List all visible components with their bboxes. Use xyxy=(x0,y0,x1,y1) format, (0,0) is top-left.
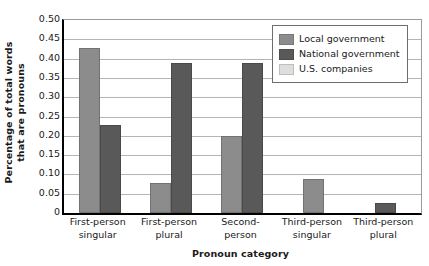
y-axis-tick-label: 0.05 xyxy=(26,188,60,198)
x-axis-tick-label-line2: plural xyxy=(348,229,419,242)
y-axis-tick-label: 0.35 xyxy=(26,72,60,82)
legend-label: National government xyxy=(299,49,400,59)
y-axis-tick-label: 0.50 xyxy=(26,14,60,24)
legend-swatch xyxy=(279,34,294,45)
x-axis-tick-label-line1: Third-person xyxy=(348,216,419,229)
bar xyxy=(303,179,324,213)
bar xyxy=(375,203,396,213)
y-axis-tick-label: 0.40 xyxy=(26,53,60,63)
y-axis-tick-label: 0.25 xyxy=(26,111,60,121)
legend-label: U.S. companies xyxy=(299,64,373,74)
x-axis-tick-label-line1: Third-person xyxy=(276,216,347,229)
bar xyxy=(100,125,121,213)
x-axis-tick-label-line1: First-person xyxy=(133,216,204,229)
x-axis-tick-label: Third-personplural xyxy=(348,216,419,241)
x-axis-tick-label-line2: plural xyxy=(133,229,204,242)
x-axis-tick-labels: First-personsingularFirst-personpluralSe… xyxy=(62,216,419,244)
y-axis-tick-label: 0.45 xyxy=(26,33,60,43)
legend-swatch xyxy=(279,64,294,75)
legend-swatch xyxy=(279,49,294,60)
bar xyxy=(171,63,192,213)
y-axis-tick-label: 0 xyxy=(26,207,60,217)
bar xyxy=(150,183,171,213)
bar-group xyxy=(135,20,206,213)
y-axis-tick-label: 0.20 xyxy=(26,130,60,140)
legend-label: Local government xyxy=(299,34,385,44)
y-axis-tick-label: 0.10 xyxy=(26,169,60,179)
x-axis-tick-label-line2: singular xyxy=(62,229,133,242)
y-axis-tick-label: 0.15 xyxy=(26,149,60,159)
bar-group xyxy=(64,20,135,213)
x-axis-tick-label: First-personsingular xyxy=(62,216,133,241)
bar xyxy=(242,63,263,213)
x-axis-tick-label-line1: First-person xyxy=(62,216,133,229)
legend: Local governmentNational governmentU.S. … xyxy=(272,25,408,83)
legend-item: Local government xyxy=(279,32,400,46)
y-axis-tick-labels: 0.500.450.400.350.300.250.200.150.100.05… xyxy=(20,0,60,266)
x-axis-tick-label-line1: Second- xyxy=(205,216,276,229)
legend-item: National government xyxy=(279,47,400,61)
x-axis-tick-label-line2: singular xyxy=(276,229,347,242)
y-axis-tick-label: 0.30 xyxy=(26,91,60,101)
x-axis-tick-label: First-personplural xyxy=(133,216,204,241)
legend-item: U.S. companies xyxy=(279,62,400,76)
x-axis-tick-label-line2: person xyxy=(205,229,276,242)
x-axis-tick-label: Third-personsingular xyxy=(276,216,347,241)
x-axis-title: Pronoun category xyxy=(62,248,419,259)
y-axis-title-line1: Percentage of total words xyxy=(4,41,15,183)
bar-chart-figure: Percentage of total words that are prono… xyxy=(0,0,429,266)
x-axis-tick-label: Second-person xyxy=(205,216,276,241)
bar xyxy=(79,48,100,213)
bar-group xyxy=(207,20,278,213)
bar xyxy=(221,136,242,213)
